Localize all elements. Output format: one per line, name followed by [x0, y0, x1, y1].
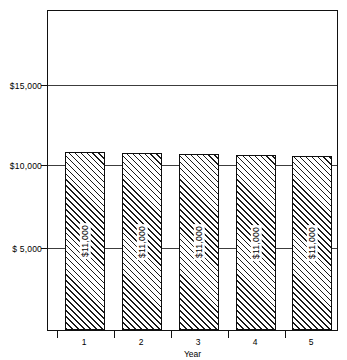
y-axis-tick-label-15000: $15,000	[0, 82, 42, 91]
plot-area: $11,000 $11,000 $11,000 $11,000 $11,000	[47, 10, 338, 331]
bar-value-label-5: $11,000	[307, 225, 318, 261]
x-axis-tick-mark-3	[228, 331, 229, 338]
x-axis-tick-label-4: 4	[235, 338, 275, 347]
bar-value-label-1: $11,000	[80, 223, 91, 259]
bar-year-3: $11,000	[179, 154, 219, 330]
x-axis-title: Year	[47, 350, 338, 359]
x-axis-tick-mark-1	[114, 331, 115, 338]
bar-year-2: $11,000	[122, 153, 162, 330]
bar-value-label-3: $11,000	[194, 224, 205, 260]
x-axis-tick-label-3: 3	[178, 338, 218, 347]
x-axis-tick-mark-4	[285, 331, 286, 338]
y-axis-tick-label-5000: $ 5,000	[0, 245, 42, 254]
bar-year-5: $11,000	[292, 156, 332, 330]
x-axis-tick-mark-2	[171, 331, 172, 338]
bar-year-4: $11,000	[236, 155, 276, 330]
y-axis-tick-label-10000: $10,000	[0, 162, 42, 171]
x-axis-tick-mark-0	[57, 331, 58, 338]
x-axis-tick-label-1: 1	[64, 338, 104, 347]
x-axis-tick-label-2: 2	[121, 338, 161, 347]
x-axis-tick-label-5: 5	[291, 338, 331, 347]
bar-value-label-2: $11,000	[137, 223, 148, 259]
bar-year-1: $11,000	[65, 152, 105, 330]
gridline-15000	[48, 85, 337, 86]
bar-chart-figure: $15,000 $10,000 $ 5,000 $11,000 $11,000 …	[0, 0, 347, 360]
bar-value-label-4: $11,000	[251, 224, 262, 260]
